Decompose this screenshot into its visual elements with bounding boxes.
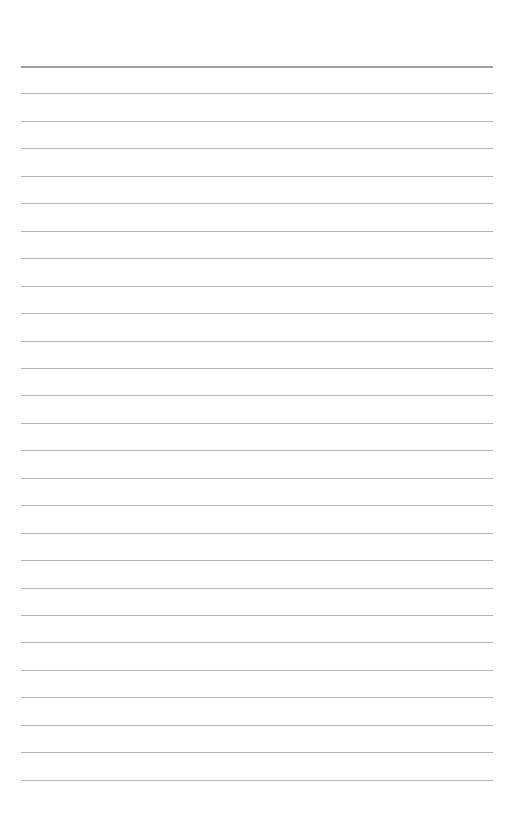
rule-line (21, 450, 493, 451)
rule-line (21, 395, 493, 396)
rule-line (21, 423, 493, 424)
rule-line (21, 176, 493, 177)
rule-line (21, 588, 493, 589)
rule-line (21, 752, 493, 753)
rule-line (21, 478, 493, 479)
top-rule-line (21, 66, 493, 68)
rule-line (21, 203, 493, 204)
rule-line (21, 286, 493, 287)
rule-line (21, 368, 493, 369)
rule-line (21, 615, 493, 616)
rule-line (21, 725, 493, 726)
rule-line (21, 505, 493, 506)
rule-line (21, 642, 493, 643)
rule-line (21, 258, 493, 259)
rule-line (21, 121, 493, 122)
rule-line (21, 341, 493, 342)
lined-paper-page (0, 0, 518, 827)
rule-line (21, 231, 493, 232)
rule-line (21, 780, 493, 781)
rule-line (21, 697, 493, 698)
rule-line (21, 533, 493, 534)
rule-line (21, 313, 493, 314)
rule-line (21, 670, 493, 671)
rule-line (21, 148, 493, 149)
rule-line (21, 560, 493, 561)
rule-line (21, 93, 493, 94)
